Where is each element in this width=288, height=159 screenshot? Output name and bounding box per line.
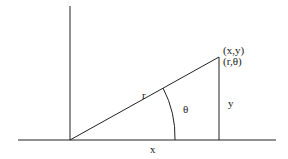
polar-coordinates-diagram: r θ y x (x,y) (r,θ) — [0, 0, 288, 159]
angle-label: θ — [183, 103, 188, 115]
polar-point-label: (r,θ) — [223, 55, 242, 68]
x-leg-label: x — [150, 143, 156, 155]
y-leg-label: y — [228, 97, 234, 109]
angle-arc — [163, 88, 175, 140]
radius-label: r — [142, 89, 146, 101]
